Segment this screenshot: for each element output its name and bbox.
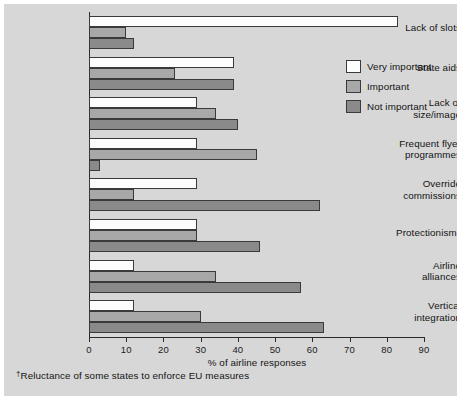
bar — [89, 108, 216, 119]
category-label: Protectionism† — [377, 225, 461, 239]
chart-legend: Very important Important Not important — [346, 57, 432, 117]
x-axis-title: % of airline responses — [89, 357, 425, 368]
x-axis-tick-label: 10 — [113, 344, 139, 355]
footnote-text: Reluctance of some states to enforce EU … — [21, 370, 250, 381]
bar — [89, 300, 134, 311]
bar — [89, 178, 197, 189]
legend-swatch-not-important — [346, 100, 361, 113]
category-label-line: Lack of slots — [377, 22, 461, 34]
x-axis-line — [89, 337, 425, 338]
legend-label-very-important: Very important — [367, 61, 432, 72]
x-axis-tick-label: 20 — [150, 344, 176, 355]
category-footnote-marker: † — [457, 226, 461, 235]
bar — [89, 260, 134, 271]
x-axis-tick-label: 0 — [76, 344, 102, 355]
bar — [89, 241, 260, 252]
x-axis-tick — [89, 337, 90, 342]
bar — [89, 97, 197, 108]
category-label-line: Vertical — [377, 300, 461, 312]
bar — [89, 149, 257, 160]
x-axis-tick-label: 40 — [225, 344, 251, 355]
x-axis-tick — [387, 337, 388, 342]
bar — [89, 38, 134, 49]
bar — [89, 200, 320, 211]
bar — [89, 189, 134, 200]
x-axis-tick-label: 50 — [262, 344, 288, 355]
category-label: Airlinealliances — [377, 260, 461, 283]
x-axis-tick-label: 30 — [188, 344, 214, 355]
bar — [89, 271, 216, 282]
category-label: Overridecommissions — [377, 178, 461, 201]
bar — [89, 68, 175, 79]
chart-figure: Lack of slotsState aidsLack ofsize/image… — [0, 0, 461, 400]
x-axis-tick — [312, 337, 313, 342]
category-label: Lack of slots — [377, 22, 461, 34]
category-label-line: alliances — [377, 271, 461, 283]
bar — [89, 27, 126, 38]
category-label: Verticalintegration — [377, 300, 461, 323]
bar — [89, 311, 201, 322]
x-axis-tick-label: 90 — [411, 344, 437, 355]
category-label-line: Frequent flyer — [377, 138, 461, 150]
x-axis-tick — [201, 337, 202, 342]
bar — [89, 230, 197, 241]
category-label-line: integration — [377, 312, 461, 324]
bar — [89, 57, 234, 68]
x-axis-tick-label: 80 — [374, 344, 400, 355]
category-label-line: Override — [377, 178, 461, 190]
x-axis-tick — [163, 337, 164, 342]
x-axis-tick-label: 60 — [299, 344, 325, 355]
legend-label-important: Important — [367, 81, 409, 92]
category-label-line: Protectionism† — [377, 225, 461, 239]
bar — [89, 322, 324, 333]
bar — [89, 79, 234, 90]
category-label-line: commissions — [377, 190, 461, 202]
chart-footnote: †Reluctance of some states to enforce EU… — [16, 369, 249, 381]
x-axis-tick — [126, 337, 127, 342]
legend-item-important: Important — [346, 77, 432, 96]
category-label-line: Airline — [377, 260, 461, 272]
bar — [89, 160, 100, 171]
bar — [89, 16, 398, 27]
legend-swatch-very-important — [346, 60, 361, 73]
bar — [89, 119, 238, 130]
category-label-line: programmes — [377, 149, 461, 161]
bar — [89, 138, 197, 149]
bar — [89, 219, 197, 230]
category-label: Frequent flyerprogrammes — [377, 138, 461, 161]
legend-swatch-important — [346, 80, 361, 93]
x-axis-tick — [238, 337, 239, 342]
x-axis-tick — [424, 337, 425, 342]
x-axis-tick — [275, 337, 276, 342]
bar — [89, 282, 301, 293]
legend-label-not-important: Not important — [367, 101, 427, 112]
x-axis-tick — [350, 337, 351, 342]
x-axis-tick-label: 70 — [337, 344, 363, 355]
legend-item-not-important: Not important — [346, 97, 432, 116]
legend-item-very-important: Very important — [346, 57, 432, 76]
